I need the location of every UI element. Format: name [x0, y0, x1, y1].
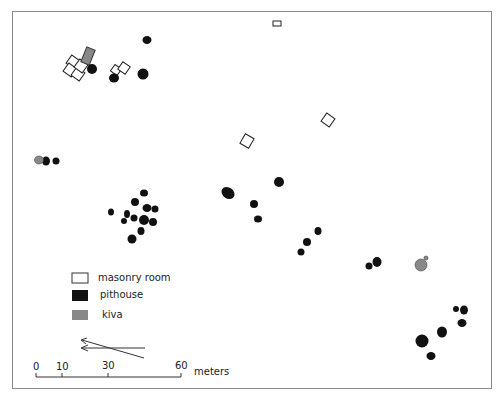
legend-swatch-pithouse [72, 290, 88, 301]
legend-swatch-kiva [72, 310, 88, 320]
site-map: masonry room pithouse kiva 0 10 30 60 me… [0, 0, 499, 399]
legend-label-masonry-room: masonry room [98, 272, 171, 283]
scale-tick-60: 60 [175, 360, 188, 371]
scale-unit: meters [194, 366, 229, 377]
scale-tick-30: 30 [102, 360, 115, 371]
legend-swatch-masonry-room [72, 273, 88, 283]
masonry-room-top [273, 21, 281, 26]
legend-label-pithouse: pithouse [100, 289, 143, 300]
scale-tick-10: 10 [56, 361, 69, 372]
legend-label-kiva: kiva [102, 309, 123, 320]
scale-tick-0: 0 [33, 361, 39, 372]
